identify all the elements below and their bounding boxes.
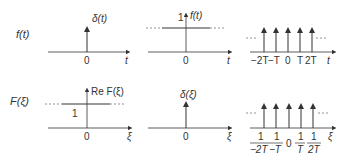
delta-annotation: δ(ξ)	[180, 89, 197, 101]
origin-label: 0	[84, 131, 90, 142]
function-annotation: Re F(ξ)	[91, 86, 124, 98]
axis-label: ξ	[227, 131, 232, 143]
origin-label: 0	[183, 55, 189, 66]
panel-freq-constant: Re F(ξ) 1 0 ξ	[45, 86, 132, 143]
axis-label: t	[125, 55, 129, 66]
axis-label: ξ	[127, 131, 132, 143]
svg-text:−T: −T	[269, 144, 282, 155]
origin-label: 0	[183, 131, 189, 142]
axis-label: t	[227, 55, 231, 66]
svg-text:1: 1	[311, 131, 317, 142]
tick-fraction: 1 −2T	[250, 131, 268, 155]
axis-label: t	[327, 55, 331, 66]
row-label-time: f(t)	[16, 28, 30, 40]
tick-fraction: 1 −T	[268, 131, 283, 155]
tick-label: −T	[268, 55, 280, 66]
tick-label: 2T	[305, 55, 317, 66]
panel-time-comb: −2T −T 0 T 2T t	[246, 30, 334, 66]
panel-time-delta: δ(t) 0 t	[48, 13, 129, 66]
level-label: 1	[72, 108, 78, 119]
svg-text:1: 1	[298, 131, 304, 142]
panel-freq-delta: δ(ξ) 0 ξ	[148, 89, 232, 143]
panel-time-constant: 1 f(t) 0 t	[146, 10, 231, 66]
delta-annotation: δ(t)	[92, 13, 107, 24]
tick-zero: 0	[286, 138, 292, 149]
tick-label: −2T	[251, 55, 269, 66]
panel-freq-comb: 1 −2T 1 −T 0 1 T 1 2T ξ	[246, 106, 334, 155]
level-label: 1	[178, 12, 184, 23]
tick-label: T	[297, 55, 303, 66]
svg-text:0: 0	[286, 138, 292, 149]
fourier-pairs-diagram: f(t) F(ξ) δ(t) 0 t 1 f(t) 0 t −2T −T 0 T…	[0, 0, 352, 155]
row-label-freq: F(ξ)	[10, 95, 29, 108]
svg-text:1: 1	[258, 131, 264, 142]
origin-label: 0	[84, 55, 90, 66]
svg-text:T: T	[297, 144, 304, 155]
function-annotation: f(t)	[190, 10, 202, 21]
svg-text:1: 1	[274, 131, 280, 142]
axis-label: ξ	[328, 131, 333, 143]
tick-fraction: 1 T	[295, 131, 305, 155]
svg-text:−2T: −2T	[250, 144, 268, 155]
tick-label: 0	[285, 55, 291, 66]
tick-fraction: 1 2T	[307, 131, 321, 155]
svg-text:2T: 2T	[307, 144, 321, 155]
